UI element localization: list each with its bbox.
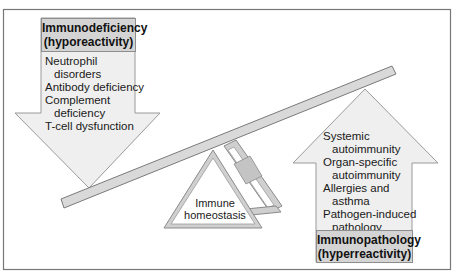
fulcrum-label-line1: Immune [180, 197, 250, 209]
hyper-header: Immunopathology (hyperreactivity) [316, 230, 413, 263]
hyper-item: Systemic [323, 130, 416, 143]
hypo-item: Complement [45, 94, 144, 107]
hypo-header-subtitle: (hyporeactivity) [42, 35, 135, 49]
hyper-item: Allergies and [323, 182, 416, 195]
hyper-header-subtitle: (hyperreactivity) [317, 247, 412, 261]
fulcrum-label-line2: homeostasis [180, 209, 250, 221]
hyper-item-cont: autoimmunity [323, 169, 416, 182]
hyper-list: Systemic autoimmunity Organ-specific aut… [323, 130, 416, 234]
hyper-item-cont: autoimmunity [323, 143, 416, 156]
hypo-item-cont: deficiency [45, 107, 144, 120]
hypo-item: Antibody deficiency [45, 81, 144, 94]
hypo-item: Neutrophil [45, 55, 144, 68]
hypo-list: Neutrophil disorders Antibody deficiency… [45, 55, 144, 133]
hypo-item-cont: disorders [45, 68, 144, 81]
hypo-header: Immunodeficiency (hyporeactivity) [41, 18, 136, 52]
hyper-header-title: Immunopathology [317, 233, 412, 247]
hyper-item: Organ-specific [323, 156, 416, 169]
hyper-item-cont: asthma [323, 195, 416, 208]
hypo-header-title: Immunodeficiency [42, 21, 135, 35]
fulcrum-label: Immune homeostasis [180, 197, 250, 221]
hyper-item: Pathogen-induced [323, 208, 416, 221]
hypo-item: T-cell dysfunction [45, 120, 144, 133]
